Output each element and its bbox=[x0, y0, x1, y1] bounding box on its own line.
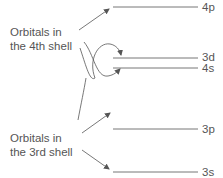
shell4-label: Orbitals in the 4th shell bbox=[10, 25, 72, 53]
shell4-label-line2: the 4th shell bbox=[10, 39, 72, 53]
arrow-3rd-to-3s bbox=[82, 150, 109, 169]
level-label-4s: 4s bbox=[202, 62, 214, 74]
level-label-3p: 3p bbox=[202, 123, 215, 135]
shell3-label-line2: the 3rd shell bbox=[10, 145, 73, 159]
arrow-4th-to-4p bbox=[79, 9, 109, 30]
connector-3rd-up bbox=[78, 78, 86, 120]
shell3-label: Orbitals in the 3rd shell bbox=[10, 131, 73, 159]
arrow-3rd-to-3p bbox=[82, 113, 110, 133]
shell3-label-line1: Orbitals in bbox=[10, 131, 73, 145]
arrow-4th-to-4s bbox=[84, 42, 120, 76]
level-label-3s: 3s bbox=[202, 166, 214, 178]
level-label-4p: 4p bbox=[202, 1, 215, 13]
shell4-label-line1: Orbitals in bbox=[10, 25, 72, 39]
